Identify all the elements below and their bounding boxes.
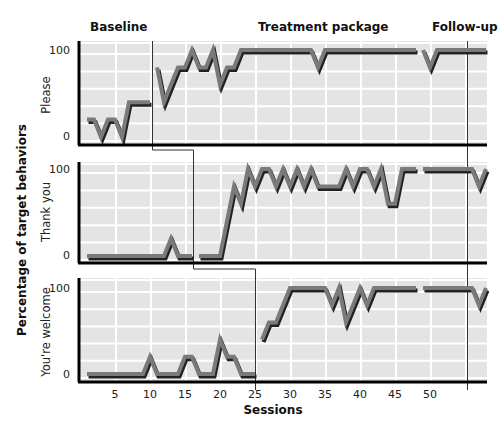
phase-title-baseline: Baseline	[90, 20, 147, 34]
phase-title-followup: Follow-up	[432, 20, 498, 34]
x-tick-5: 5	[112, 388, 119, 401]
panel-label-thank-you: Thank you	[39, 182, 53, 243]
phase-title-treatment: Treatment package	[258, 20, 388, 34]
x-tick-30: 30	[283, 388, 297, 401]
x-tick-20: 20	[213, 388, 227, 401]
x-tick-25: 25	[248, 388, 262, 401]
panel-3-background	[79, 278, 487, 382]
panel1-y100: 100	[49, 44, 70, 57]
x-tick-35: 35	[318, 388, 332, 401]
panel1-y0: 0	[63, 130, 70, 143]
x-tick-45: 45	[388, 388, 402, 401]
panel3-y0: 0	[63, 368, 70, 381]
x-axis-title: Sessions	[243, 403, 302, 417]
panel-label-youre-welcome: You're welcome	[39, 287, 53, 378]
x-tick-40: 40	[353, 388, 367, 401]
panel2-y0: 0	[63, 249, 70, 262]
panel2-y100: 100	[49, 163, 70, 176]
x-tick-50: 50	[423, 388, 437, 401]
x-tick-10: 10	[143, 388, 157, 401]
multiple-baseline-chart: Baseline Treatment package Follow-up 100…	[0, 0, 502, 428]
y-axis-title: Percentage of target behaviors	[15, 124, 29, 336]
x-tick-15: 15	[178, 388, 192, 401]
panel-label-please: Please	[39, 76, 53, 113]
